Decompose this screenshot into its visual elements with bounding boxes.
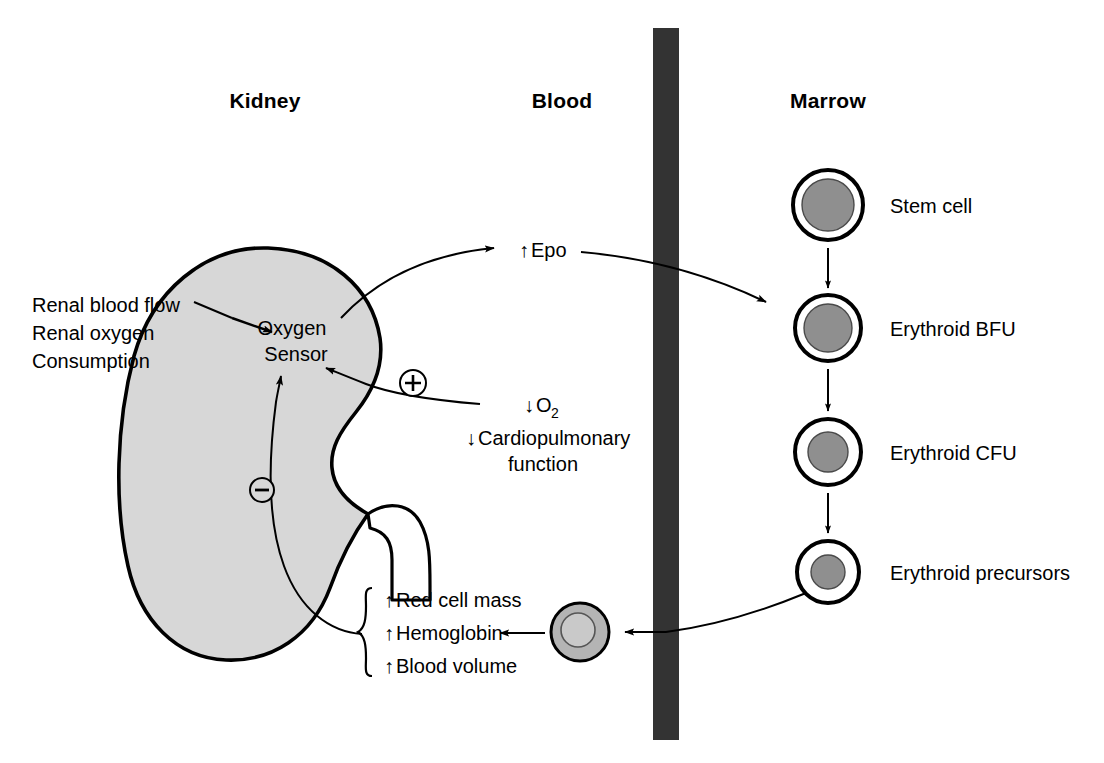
consumption-label: Consumption	[32, 350, 150, 372]
figure-canvas: Kidney Blood Marrow Renal blood flow Ren…	[0, 0, 1104, 763]
outcome-label-2: Blood volume	[396, 655, 517, 677]
cardiopulmonary-down-arrow: ↓	[466, 427, 476, 449]
marrow-cell-erythroid-precursors	[797, 541, 859, 603]
erythropoiesis-diagram: Kidney Blood Marrow Renal blood flow Ren…	[0, 0, 1104, 763]
blood-vessel-bar	[653, 28, 679, 740]
cardiopulmonary-label-line2: function	[508, 453, 578, 475]
cardiopulmonary-label-line1: Cardiopulmonary	[478, 427, 630, 449]
renal-oxygen-label: Renal oxygen	[32, 322, 154, 344]
outcome-label-0: Red cell mass	[396, 589, 522, 611]
positive-sign-circle	[400, 370, 426, 396]
marrow-cell-label-stem-cell: Stem cell	[890, 195, 972, 217]
outcome-label-1: Hemoglobin	[396, 622, 503, 644]
o2-subscript: 2	[551, 405, 559, 421]
oxygen-sensor-label-line2: Sensor	[264, 343, 328, 365]
column-header-blood: Blood	[532, 89, 592, 112]
outcome-arrow-1: ↑	[384, 622, 394, 644]
marrow-cell-stem-cell	[793, 170, 863, 240]
oxygen-sensor-label-line1: Oxygen	[258, 317, 327, 339]
ureter-tube	[368, 506, 430, 600]
erythrocyte	[551, 603, 609, 661]
outcomes-curly-brace	[358, 588, 372, 676]
marrow-cell-label-erythroid-bfu: Erythroid BFU	[890, 318, 1016, 340]
outcome-arrow-0: ↑	[384, 589, 394, 611]
o2-label: O	[536, 394, 552, 416]
negative-sign-circle	[250, 478, 274, 502]
renal-blood-flow-label: Renal blood flow	[32, 294, 180, 316]
o2-down-arrow: ↓	[524, 394, 534, 416]
outcome-arrow-2: ↑	[384, 655, 394, 677]
marrow-cell-label-erythroid-cfu: Erythroid CFU	[890, 442, 1017, 464]
epo-up-arrow: ↑	[519, 239, 529, 261]
marrow-cell-erythroid-bfu	[795, 295, 861, 361]
marrow-cell-erythroid-cfu	[795, 419, 861, 485]
epo-label: Epo	[531, 239, 567, 261]
precursor-release-curve	[666, 593, 806, 632]
column-header-marrow: Marrow	[790, 89, 866, 112]
marrow-cell-label-erythroid-precursors: Erythroid precursors	[890, 562, 1070, 584]
column-header-kidney: Kidney	[229, 89, 300, 112]
